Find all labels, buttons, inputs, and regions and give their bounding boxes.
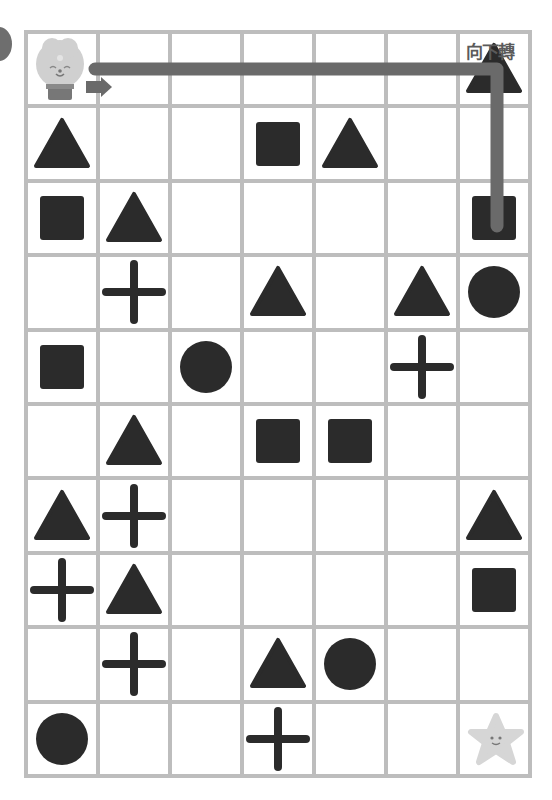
- cross-icon: [390, 335, 454, 399]
- triangle-icon: [33, 489, 91, 541]
- triangle-icon: [465, 489, 523, 541]
- grid-cell-r8-c6[interactable]: [460, 629, 528, 699]
- cross-icon: [102, 260, 166, 324]
- grid-cell-r2-c1[interactable]: [100, 183, 168, 253]
- grid-cell-r0-c1[interactable]: [100, 34, 168, 104]
- grid-cell-r3-c3[interactable]: [244, 257, 312, 327]
- circle-icon: [468, 266, 520, 318]
- grid-cell-r2-c2[interactable]: [172, 183, 240, 253]
- grid-cell-r0-c2[interactable]: [172, 34, 240, 104]
- grid-cell-r4-c0[interactable]: [28, 332, 96, 402]
- triangle-icon: [249, 265, 307, 317]
- grid-cell-r0-c5[interactable]: [388, 34, 456, 104]
- triangle-icon: [105, 414, 163, 466]
- triangle-icon: [105, 563, 163, 615]
- grid-cell-r6-c6[interactable]: [460, 480, 528, 550]
- grid-cell-r4-c1[interactable]: [100, 332, 168, 402]
- square-icon: [472, 196, 516, 240]
- grid-cell-r0-c0[interactable]: [28, 34, 96, 104]
- grid-cell-r9-c4[interactable]: [316, 704, 384, 774]
- grid-cell-r7-c3[interactable]: [244, 555, 312, 625]
- grid-cell-r1-c2[interactable]: [172, 108, 240, 178]
- grid-cell-r7-c6[interactable]: [460, 555, 528, 625]
- grid-cell-r3-c0[interactable]: [28, 257, 96, 327]
- grid-cell-r3-c6[interactable]: [460, 257, 528, 327]
- grid-cell-r1-c5[interactable]: [388, 108, 456, 178]
- lion-character-icon: [32, 38, 92, 102]
- grid-cell-r2-c0[interactable]: [28, 183, 96, 253]
- circle-icon: [324, 638, 376, 690]
- grid-cell-r8-c0[interactable]: [28, 629, 96, 699]
- square-icon: [40, 345, 84, 389]
- circle-icon: [36, 713, 88, 765]
- grid-cell-r0-c3[interactable]: [244, 34, 312, 104]
- grid-cell-r5-c1[interactable]: [100, 406, 168, 476]
- grid-cell-r7-c0[interactable]: [28, 555, 96, 625]
- square-icon: [256, 122, 300, 166]
- grid-cell-r4-c6[interactable]: [460, 332, 528, 402]
- grid-cell-r5-c4[interactable]: [316, 406, 384, 476]
- grid-cell-r7-c4[interactable]: [316, 555, 384, 625]
- grid-cell-r4-c2[interactable]: [172, 332, 240, 402]
- grid-cell-r9-c5[interactable]: [388, 704, 456, 774]
- circle-icon: [180, 341, 232, 393]
- grid-cell-r6-c2[interactable]: [172, 480, 240, 550]
- cross-icon: [30, 558, 94, 622]
- triangle-icon: [249, 637, 307, 689]
- grid-cell-r2-c4[interactable]: [316, 183, 384, 253]
- grid-cell-r9-c3[interactable]: [244, 704, 312, 774]
- cross-icon: [102, 484, 166, 548]
- square-icon: [328, 419, 372, 463]
- grid-cell-r1-c6[interactable]: [460, 108, 528, 178]
- grid-cell-r8-c3[interactable]: [244, 629, 312, 699]
- grid-cell-r6-c3[interactable]: [244, 480, 312, 550]
- grid-cell-r3-c4[interactable]: [316, 257, 384, 327]
- triangle-icon: [33, 117, 91, 169]
- turn-down-instruction: 向下轉: [466, 38, 514, 63]
- grid-cell-r2-c5[interactable]: [388, 183, 456, 253]
- grid-cell-r5-c3[interactable]: [244, 406, 312, 476]
- grid-cell-r1-c1[interactable]: [100, 108, 168, 178]
- grid-cell-r1-c3[interactable]: [244, 108, 312, 178]
- grid-cell-r4-c3[interactable]: [244, 332, 312, 402]
- grid-cell-r1-c0[interactable]: [28, 108, 96, 178]
- triangle-icon: [393, 265, 451, 317]
- grid-cell-r5-c5[interactable]: [388, 406, 456, 476]
- grid-cell-r4-c5[interactable]: [388, 332, 456, 402]
- grid-cell-r4-c4[interactable]: [316, 332, 384, 402]
- grid-cell-r9-c2[interactable]: [172, 704, 240, 774]
- grid-cell-r7-c1[interactable]: [100, 555, 168, 625]
- grid-cell-r8-c5[interactable]: [388, 629, 456, 699]
- grid-cell-r0-c4[interactable]: [316, 34, 384, 104]
- grid-cell-r9-c1[interactable]: [100, 704, 168, 774]
- grid-cell-r7-c2[interactable]: [172, 555, 240, 625]
- square-icon: [256, 419, 300, 463]
- grid-cell-r6-c0[interactable]: [28, 480, 96, 550]
- grid-cell-r5-c6[interactable]: [460, 406, 528, 476]
- grid-cell-r9-c6[interactable]: [460, 704, 528, 774]
- grid-cell-r2-c6[interactable]: [460, 183, 528, 253]
- cross-icon: [102, 632, 166, 696]
- grid-cell-r7-c5[interactable]: [388, 555, 456, 625]
- grid-cell-r8-c1[interactable]: [100, 629, 168, 699]
- grid-cell-r5-c0[interactable]: [28, 406, 96, 476]
- grid-cell-r8-c4[interactable]: [316, 629, 384, 699]
- maze-grid: [28, 34, 528, 774]
- grid-cell-r3-c5[interactable]: [388, 257, 456, 327]
- grid-cell-r3-c2[interactable]: [172, 257, 240, 327]
- grid-cell-r9-c0[interactable]: [28, 704, 96, 774]
- cross-icon: [246, 707, 310, 771]
- grid-cell-r6-c5[interactable]: [388, 480, 456, 550]
- starfish-goal-icon: [466, 710, 526, 770]
- grid-cell-r1-c4[interactable]: [316, 108, 384, 178]
- grid-cell-r3-c1[interactable]: [100, 257, 168, 327]
- step-number-badge: [0, 27, 12, 61]
- grid-cell-r6-c1[interactable]: [100, 480, 168, 550]
- triangle-icon: [105, 191, 163, 243]
- triangle-icon: [321, 117, 379, 169]
- grid-cell-r6-c4[interactable]: [316, 480, 384, 550]
- grid-cell-r2-c3[interactable]: [244, 183, 312, 253]
- maze-board: [24, 30, 532, 778]
- grid-cell-r5-c2[interactable]: [172, 406, 240, 476]
- grid-cell-r8-c2[interactable]: [172, 629, 240, 699]
